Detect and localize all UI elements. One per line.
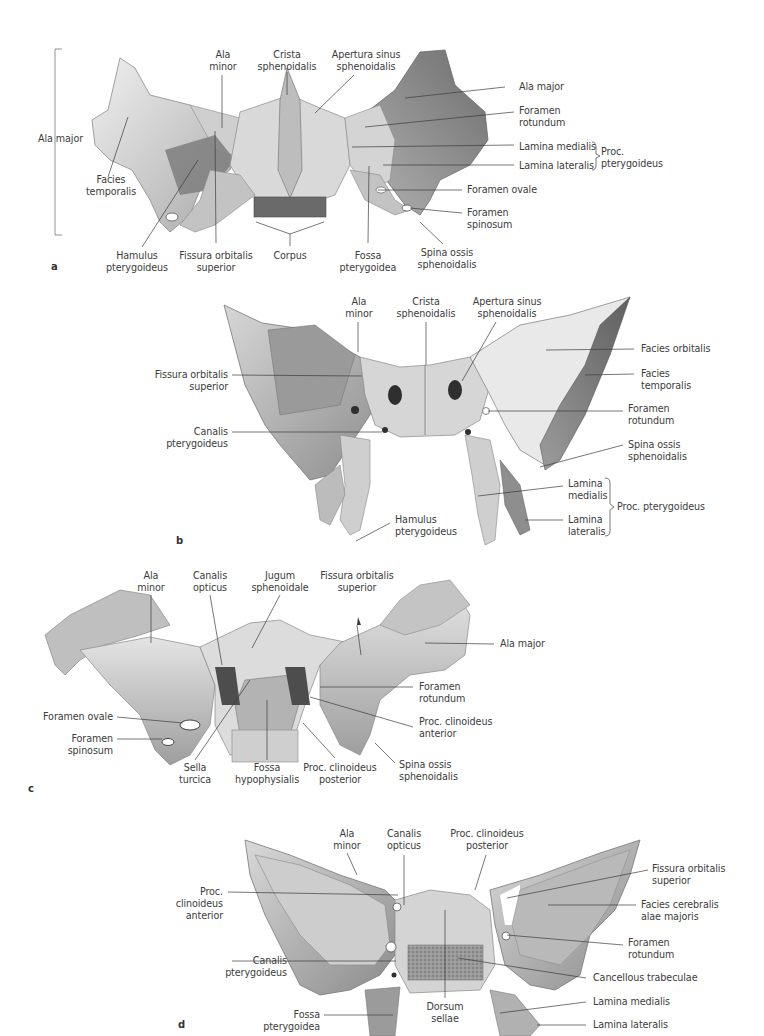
label-foramen-ovale: Foramen ovale <box>43 711 113 723</box>
label-ala-minor: Ala minor <box>137 570 164 594</box>
label-ala-minor: Ala minor <box>345 296 372 320</box>
sphenoid-superior-view-illustration <box>0 555 764 815</box>
label-lamina-medialis: Lamina medialis <box>568 478 607 502</box>
label-fossa-hypophysialis: Fossa hypophysialis <box>235 762 299 786</box>
label-fissura-orbitalis-superior: Fissura orbitalis superior <box>155 369 228 393</box>
label-hamulus-pterygoideus: Hamulus pterygoideus <box>395 514 457 538</box>
label-fossa-pterygoidea: Fossa pterygoidea <box>263 1009 320 1033</box>
label-proc-clinoideus-posterior: Proc. clinoideus posterior <box>303 762 376 786</box>
label-jugum-sphenoidale: Jugum sphenoidale <box>251 570 308 594</box>
label-proc-clinoideus-posterior: Proc. clinoideus posterior <box>450 828 523 852</box>
label-proc-pterygoideus: Proc. pterygoideus <box>617 501 705 513</box>
sphenoid-anterior-view-illustration <box>0 0 764 285</box>
label-hamulus-pterygoideus: Hamulus pterygoideus <box>106 250 168 274</box>
label-facies-temporalis: Facies temporalis <box>86 174 136 198</box>
label-foramen-rotundum: Foramen rotundum <box>519 105 565 129</box>
label-fissura-orbitalis-superior: Fissura orbitalis superior <box>179 250 252 274</box>
label-spina-ossis-sphenoidalis: Spina ossis sphenoidalis <box>628 439 687 463</box>
label-sella-turcica: Sella turcica <box>179 762 211 786</box>
label-foramen-rotundum: Foramen rotundum <box>628 937 674 961</box>
label-lamina-medialis: Lamina medialis <box>519 141 596 153</box>
panel-b: Ala minor Crista sphenoidalis Apertura s… <box>0 285 764 555</box>
label-ala-major-right: Ala major <box>519 81 564 93</box>
panel-letter-d: d <box>178 1019 185 1030</box>
label-lamina-lateralis: Lamina lateralis <box>519 160 594 172</box>
panel-letter-c: c <box>28 783 34 794</box>
panel-d: Ala minor Canalis opticus Proc. clinoide… <box>0 815 764 1036</box>
label-ala-major: Ala major <box>500 638 545 650</box>
panel-letter-a: a <box>51 261 58 272</box>
label-cancellous-trabeculae: Cancellous trabeculae <box>593 972 697 984</box>
label-foramen-spinosum: Foramen spinosum <box>467 207 512 231</box>
label-foramen-rotundum: Foramen rotundum <box>419 681 465 705</box>
label-ala-minor: Ala minor <box>333 828 360 852</box>
label-facies-cerebralis-alae-majoris: Facies cerebralis alae majoris <box>641 899 719 923</box>
label-spina-ossis-sphenoidalis: Spina ossis sphenoidalis <box>399 759 458 783</box>
label-proc-clinoideus-anterior: Proc. clinoideus anterior <box>176 886 223 922</box>
panel-a: Ala major Ala minor Crista sphenoidalis … <box>0 0 764 285</box>
panel-c: Ala minor Canalis opticus Jugum sphenoid… <box>0 555 764 815</box>
label-lamina-lateralis: Lamina lateralis <box>568 514 605 538</box>
label-canalis-opticus: Canalis opticus <box>387 828 421 852</box>
label-foramen-spinosum: Foramen spinosum <box>68 733 113 757</box>
label-foramen-rotundum: Foramen rotundum <box>628 403 674 427</box>
label-fissura-orbitalis-superior: Fissura orbitalis superior <box>652 863 725 887</box>
label-ala-major: Ala major <box>38 133 83 145</box>
label-crista-sphenoidalis: Crista sphenoidalis <box>397 296 456 320</box>
label-fossa-pterygoidea: Fossa pterygoidea <box>340 250 397 274</box>
label-apertura-sinus-sphenoidalis: Apertura sinus sphenoidalis <box>332 49 401 73</box>
label-canalis-pterygoideus: Canalis pterygoideus <box>225 955 287 979</box>
label-facies-temporalis: Facies temporalis <box>641 368 691 392</box>
label-ala-minor: Ala minor <box>209 49 236 73</box>
label-lamina-medialis: Lamina medialis <box>593 996 670 1008</box>
label-canalis-pterygoideus: Canalis pterygoideus <box>166 426 228 450</box>
label-apertura-sinus-sphenoidalis: Apertura sinus sphenoidalis <box>473 296 542 320</box>
label-facies-orbitalis: Facies orbitalis <box>641 343 710 355</box>
label-canalis-opticus: Canalis opticus <box>193 570 227 594</box>
label-foramen-ovale: Foramen ovale <box>467 184 537 196</box>
label-lamina-lateralis: Lamina lateralis <box>593 1019 668 1031</box>
label-fissura-orbitalis-superior: Fissura orbitalis superior <box>320 570 393 594</box>
panel-letter-b: b <box>176 535 183 546</box>
label-proc-clinoideus-anterior: Proc. clinoideus anterior <box>419 716 492 740</box>
label-crista-sphenoidalis: Crista sphenoidalis <box>258 49 317 73</box>
label-corpus: Corpus <box>273 250 306 262</box>
label-dorsum-sellae: Dorsum sellae <box>426 1001 463 1025</box>
label-proc-pterygoideus: Proc. pterygoideus <box>601 146 663 170</box>
label-spina-ossis-sphenoidalis: Spina ossis sphenoidalis <box>418 247 477 271</box>
